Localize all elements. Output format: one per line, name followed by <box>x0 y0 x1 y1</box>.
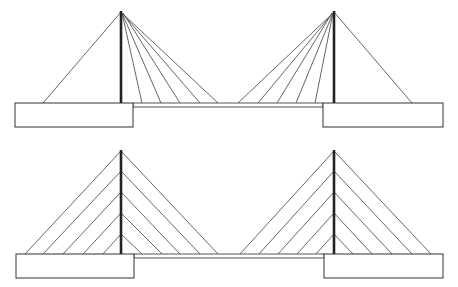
fan-cable-stayed-bridge <box>15 11 443 127</box>
bridge-pier <box>324 254 443 278</box>
stay-cable <box>258 14 332 103</box>
bridge-deck <box>134 254 324 258</box>
stay-cable <box>121 213 162 254</box>
stay-cable <box>240 151 334 254</box>
stay-cable <box>334 12 412 103</box>
stay-cable <box>123 14 200 103</box>
stay-cable <box>122 13 161 103</box>
stay-cable <box>334 151 431 254</box>
bridge-deck <box>133 103 323 107</box>
bridge-pier <box>16 254 134 278</box>
stay-cable <box>297 213 334 254</box>
stay-cable <box>316 234 334 254</box>
stay-cable <box>43 171 121 254</box>
stay-cable <box>121 151 218 254</box>
stay-cable <box>121 171 200 254</box>
stay-cable <box>43 12 121 103</box>
stay-cable <box>259 171 334 254</box>
stay-cable <box>123 14 218 103</box>
stay-cable <box>334 171 412 254</box>
stay-cable <box>83 213 121 254</box>
stay-cable <box>121 234 142 254</box>
stay-cable <box>103 234 121 254</box>
bridge-diagram <box>0 0 458 287</box>
stay-cable <box>25 151 121 254</box>
stay-cable <box>334 213 372 254</box>
stay-cable <box>278 192 334 254</box>
harp-cable-stayed-bridge <box>16 150 443 278</box>
bridge-pier <box>323 103 443 127</box>
bridge-pier <box>15 103 133 127</box>
stay-cable <box>121 192 180 254</box>
stay-cable <box>334 234 353 254</box>
stay-cable <box>296 13 333 103</box>
